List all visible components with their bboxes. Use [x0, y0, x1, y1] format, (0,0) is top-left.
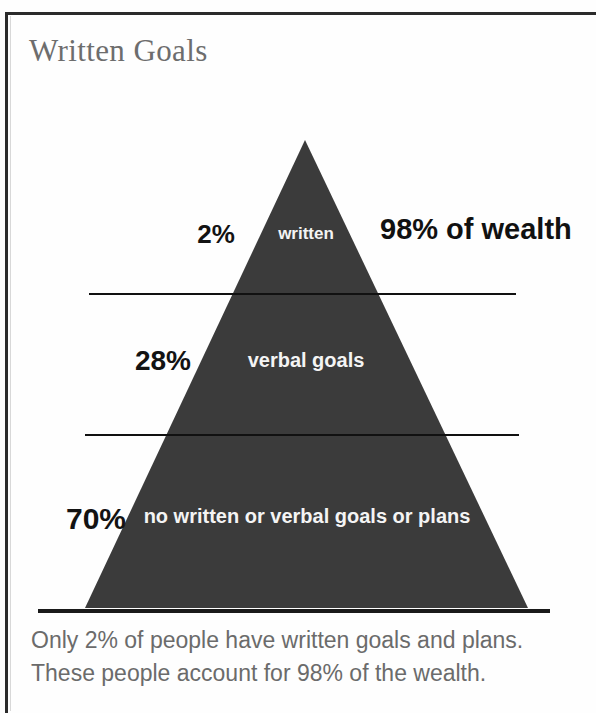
infographic-page: Written Goals 2% written 98% of wealth 2…	[0, 0, 596, 713]
caption-line-1: Only 2% of people have written goals and…	[31, 624, 576, 657]
segment-label-none: no written or verbal goals or plans	[125, 505, 489, 528]
divider-line-top	[89, 293, 516, 295]
segment-label-written: written	[246, 224, 366, 244]
caption: Only 2% of people have written goals and…	[31, 624, 576, 690]
segment-percent-verbal: 28%	[124, 345, 202, 377]
segment-label-verbal: verbal goals	[221, 349, 391, 372]
segment-percent-written: 2%	[185, 219, 247, 250]
pyramid-baseline	[38, 609, 550, 613]
wealth-annotation: 98% of wealth	[380, 213, 572, 246]
divider-line-middle	[85, 434, 519, 436]
caption-line-2: These people account for 98% of the weal…	[31, 657, 576, 690]
